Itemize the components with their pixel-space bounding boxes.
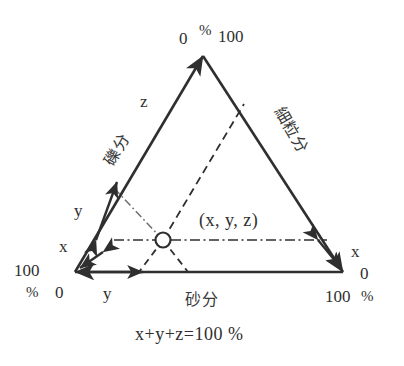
diagram-canvas <box>0 0 404 366</box>
sum-formula: x+y+z=100 % <box>135 325 243 343</box>
bottom-axis-label-sand: 砂分 <box>185 292 219 308</box>
bottom-left-scale-upper: 100 <box>14 262 40 279</box>
z-variable-label: z <box>140 93 148 110</box>
x-variable-label-left: x <box>59 238 68 255</box>
point-tuple-label: (x, y, z) <box>199 211 258 229</box>
x-variable-label-right: x <box>351 243 360 260</box>
y-constant-dashdot-line <box>112 186 163 240</box>
bottom-right-scale-lower: 100 <box>325 288 351 305</box>
y-variable-label-bottom: y <box>103 285 112 302</box>
bottom-right-scale-upper: 0 <box>360 265 369 282</box>
top-right-scale-value: 100 <box>218 28 244 45</box>
bottom-left-percent-symbol: % <box>26 285 39 300</box>
x-measure-right <box>318 240 341 268</box>
bottom-right-percent-symbol: % <box>361 289 374 304</box>
y-measure-left <box>96 182 117 240</box>
top-percent-symbol: % <box>199 23 212 38</box>
ternary-diagram-figure: 0 % 100 z 礫分 細粒分 y x x (x, y, z) 100 % 0… <box>0 0 404 366</box>
y-variable-label-left: y <box>74 202 83 219</box>
bottom-left-scale-lower: 0 <box>55 284 64 301</box>
plotted-point-marker <box>156 233 171 248</box>
top-left-scale-value: 0 <box>179 30 188 47</box>
